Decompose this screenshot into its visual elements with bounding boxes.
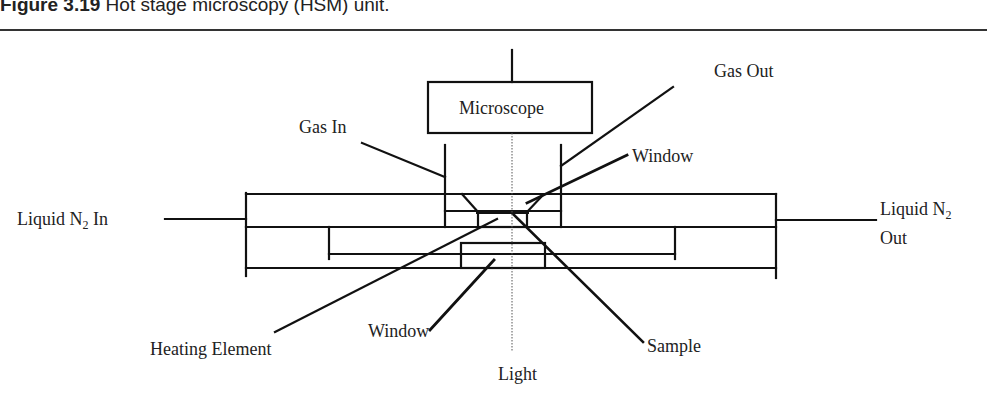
label-light: Light <box>498 364 537 384</box>
label-window-bottom: Window <box>368 321 429 341</box>
window-top-pointer <box>527 155 627 203</box>
label-gas-in: Gas In <box>299 117 347 137</box>
label-liquid-n2-in: Liquid N2 In <box>17 209 108 232</box>
lower-window-box <box>461 243 545 268</box>
hsm-diagram: Microscope Gas In Gas Out Window Liquid … <box>0 0 987 398</box>
label-gas-out: Gas Out <box>714 61 774 81</box>
label-sample: Sample <box>647 336 701 356</box>
label-liquid-n2-out-line2: Out <box>880 228 907 248</box>
sample-pointer <box>512 213 643 342</box>
gas-in-line <box>362 143 445 177</box>
label-liquid-n2-out: Liquid N2 <box>880 199 952 222</box>
window-bottom-pointer <box>430 260 494 330</box>
label-microscope: Microscope <box>459 98 544 118</box>
label-window-top: Window <box>632 146 693 166</box>
label-heating-element: Heating Element <box>150 339 271 359</box>
window-slope-left <box>462 194 478 212</box>
heating-element-pointer <box>275 219 497 332</box>
